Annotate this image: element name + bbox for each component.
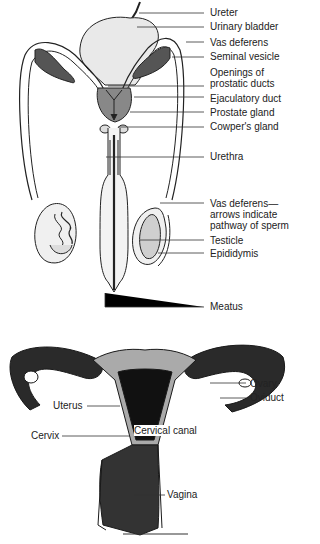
label-cowpers-gland: Cowper's gland bbox=[210, 121, 279, 132]
label-testicle: Testicle bbox=[210, 235, 243, 246]
label-cervical-canal: Cervical canal bbox=[134, 425, 197, 436]
label-openings-prostatic-ducts: Openings of prostatic ducts bbox=[210, 67, 290, 89]
label-prostate-gland: Prostate gland bbox=[210, 107, 275, 118]
label-seminal-vesicle: Seminal vesicle bbox=[210, 51, 279, 62]
label-epididymis: Epididymis bbox=[210, 248, 258, 259]
label-vas-deferens: Vas deferens bbox=[210, 37, 268, 48]
label-uterus: Uterus bbox=[53, 400, 82, 411]
label-ovary: Ovary bbox=[250, 378, 277, 389]
label-ejaculatory-duct: Ejaculatory duct bbox=[210, 93, 281, 104]
label-oviduct: Oviduct bbox=[250, 392, 284, 403]
male-reproductive-illustration bbox=[20, 2, 184, 292]
label-ureter: Ureter bbox=[210, 7, 238, 18]
label-urethra: Urethra bbox=[210, 151, 243, 162]
label-cervix: Cervix bbox=[31, 430, 59, 441]
label-urinary-bladder: Urinary bladder bbox=[210, 21, 278, 32]
label-meatus: Meatus bbox=[210, 301, 243, 312]
label-vas-deferens-arrows: Vas deferens— arrows indicate pathway of… bbox=[210, 198, 294, 231]
label-vagina: Vagina bbox=[167, 489, 197, 500]
